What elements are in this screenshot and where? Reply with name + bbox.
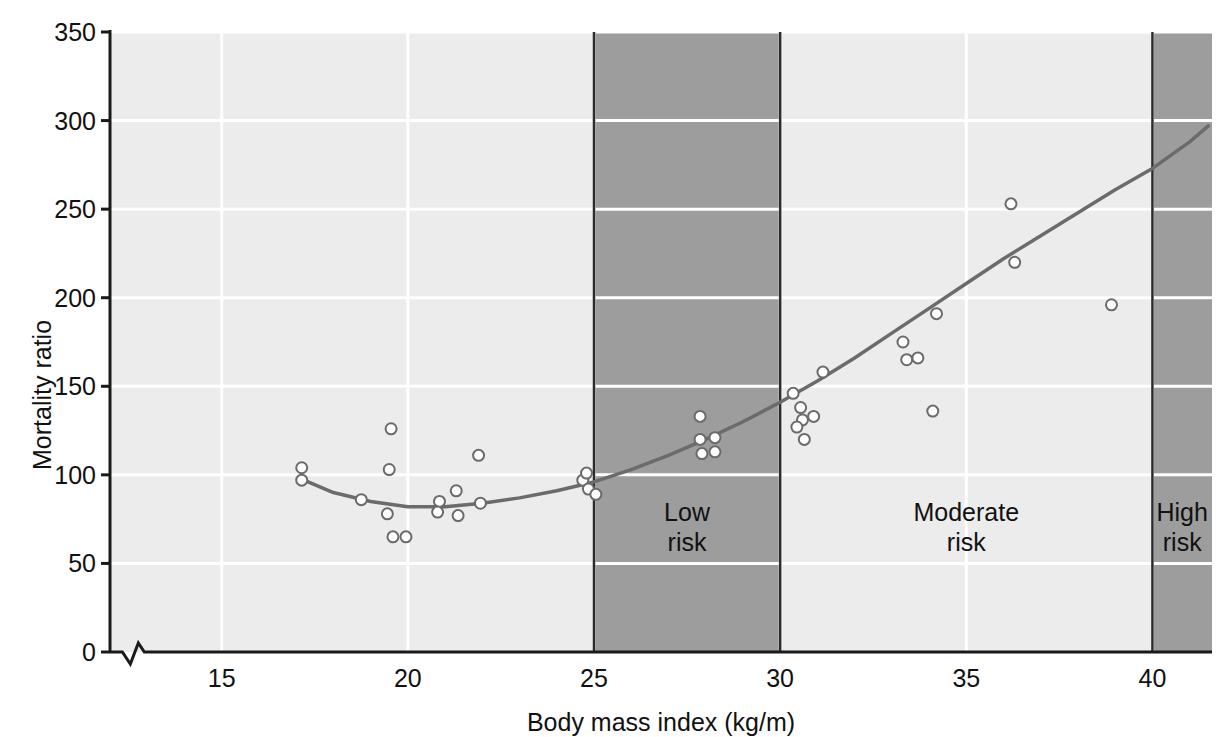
x-tick-label: 20 bbox=[394, 666, 422, 691]
data-point bbox=[799, 434, 810, 445]
data-point bbox=[434, 496, 445, 507]
chart-figure: Mortality ratio 350300250200150100500 15… bbox=[0, 0, 1227, 737]
data-point bbox=[432, 507, 443, 518]
x-tick-label: 30 bbox=[766, 666, 794, 691]
data-point bbox=[387, 531, 398, 542]
data-point bbox=[912, 352, 923, 363]
data-point bbox=[927, 406, 938, 417]
data-point bbox=[400, 531, 411, 542]
x-axis-title: Body mass index (kg/m) bbox=[110, 708, 1212, 737]
scatter-plot-canvas bbox=[0, 0, 1227, 737]
data-point bbox=[296, 462, 307, 473]
data-point bbox=[795, 402, 806, 413]
data-point bbox=[296, 475, 307, 486]
band-label-high-risk: High risk bbox=[1072, 497, 1227, 557]
x-tick-label: 15 bbox=[208, 666, 236, 691]
data-point bbox=[788, 388, 799, 399]
data-point bbox=[695, 411, 706, 422]
data-point bbox=[453, 510, 464, 521]
data-point bbox=[475, 498, 486, 509]
risk-band-0 bbox=[594, 32, 780, 652]
data-point bbox=[384, 464, 395, 475]
data-point bbox=[382, 508, 393, 519]
y-tick-label: 150 bbox=[54, 374, 96, 399]
data-point bbox=[808, 411, 819, 422]
y-tick-label: 350 bbox=[54, 20, 96, 45]
data-point bbox=[695, 434, 706, 445]
y-tick-label: 0 bbox=[82, 640, 96, 665]
data-point bbox=[931, 308, 942, 319]
data-point bbox=[356, 494, 367, 505]
band-label-low-risk: Low risk bbox=[577, 497, 797, 557]
data-point bbox=[709, 446, 720, 457]
data-point bbox=[473, 450, 484, 461]
y-tick-label: 250 bbox=[54, 197, 96, 222]
data-point bbox=[817, 367, 828, 378]
data-point bbox=[1005, 198, 1016, 209]
data-point bbox=[901, 354, 912, 365]
data-point bbox=[1009, 257, 1020, 268]
data-point bbox=[709, 432, 720, 443]
risk-band-2 bbox=[1152, 32, 1212, 652]
data-point bbox=[791, 422, 802, 433]
data-point bbox=[451, 485, 462, 496]
y-tick-label: 200 bbox=[54, 286, 96, 311]
y-tick-label: 100 bbox=[54, 463, 96, 488]
data-point bbox=[386, 423, 397, 434]
y-tick-label: 50 bbox=[68, 551, 96, 576]
data-point bbox=[696, 448, 707, 459]
y-axis-title: Mortality ratio bbox=[28, 320, 57, 470]
data-point bbox=[581, 468, 592, 479]
x-tick-label: 25 bbox=[580, 666, 608, 691]
x-tick-label: 35 bbox=[952, 666, 980, 691]
data-point bbox=[1106, 299, 1117, 310]
data-point bbox=[897, 337, 908, 348]
y-tick-label: 300 bbox=[54, 109, 96, 134]
band-label-moderate-risk: Moderate risk bbox=[856, 497, 1076, 557]
x-tick-label: 40 bbox=[1139, 666, 1167, 691]
